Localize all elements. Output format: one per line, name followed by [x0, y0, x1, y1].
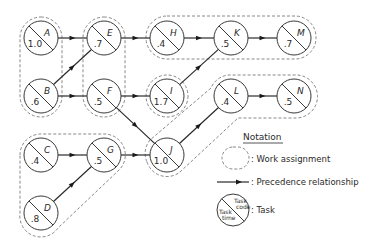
task-node-j: J1.0	[150, 138, 184, 172]
task-code: G	[107, 145, 114, 155]
arrow-icon	[133, 36, 139, 41]
task-node-f: F.5	[87, 79, 121, 113]
task-time: .4	[157, 39, 166, 49]
task-time: 1.0	[154, 156, 169, 166]
task-time: .5	[221, 39, 230, 49]
legend-task-time-line2: time	[222, 214, 236, 221]
task-node-i: I1.7	[150, 79, 184, 113]
legend-title: Notation	[243, 132, 282, 142]
task-time: .4	[31, 156, 40, 166]
arrow-icon	[70, 36, 76, 41]
task-time: 1.7	[154, 97, 168, 107]
legend: Notation : Work assignment : Precedence …	[217, 132, 359, 226]
task-node-b: B.6	[24, 79, 58, 113]
task-node-l: L.4	[214, 79, 248, 113]
task-code: F	[107, 86, 113, 96]
legend-task-label: : Task	[251, 205, 275, 215]
task-node-m: M.7	[277, 21, 311, 55]
arrow-icon	[196, 36, 202, 41]
task-time: .7	[284, 39, 293, 49]
task-time: .5	[94, 156, 103, 166]
arrow-icon	[70, 153, 76, 158]
task-node-e: E.7	[87, 21, 121, 55]
precedence-edges	[54, 36, 277, 202]
legend-task-code-line2: code	[236, 203, 251, 210]
task-time: .8	[31, 214, 40, 224]
task-code: M	[297, 28, 305, 38]
legend-arrow-icon	[236, 180, 242, 185]
legend-work-assignment-label: : Work assignment	[251, 154, 331, 164]
task-code: B	[44, 86, 50, 96]
arrow-icon	[133, 94, 139, 99]
task-node-n: N.5	[277, 79, 311, 113]
task-time: .5	[284, 97, 293, 107]
task-code: H	[170, 28, 177, 38]
task-node-g: G.5	[87, 138, 121, 172]
task-node-c: C.4	[24, 138, 58, 172]
task-time: .5	[94, 97, 103, 107]
legend-work-assignment-icon	[222, 147, 249, 169]
task-time: 1.0	[28, 39, 43, 49]
task-code: I	[170, 86, 173, 96]
task-node-k: K.5	[214, 21, 248, 55]
arrow-icon	[260, 94, 266, 99]
arrow-icon	[260, 36, 266, 41]
task-time: .6	[31, 97, 40, 107]
task-time: .4	[221, 97, 230, 107]
arrow-icon	[70, 94, 76, 99]
task-node-d: D.8	[24, 196, 58, 230]
task-code: D	[44, 203, 51, 213]
legend-precedence-label: : Precedence relationship	[251, 177, 359, 187]
task-code: E	[107, 28, 113, 38]
task-node-a: A1.0	[24, 21, 58, 55]
arrow-icon	[133, 153, 139, 158]
task-code: C	[44, 145, 51, 155]
task-code: N	[297, 86, 304, 96]
task-code: A	[43, 28, 50, 38]
task-node-h: H.4	[150, 21, 184, 55]
task-time: .7	[94, 39, 103, 49]
task-code: L	[234, 86, 239, 96]
precedence-diagram: A1.0B.6E.7F.5H.4K.5M.7I1.7L.4N.5C.4G.5J1…	[0, 0, 371, 244]
